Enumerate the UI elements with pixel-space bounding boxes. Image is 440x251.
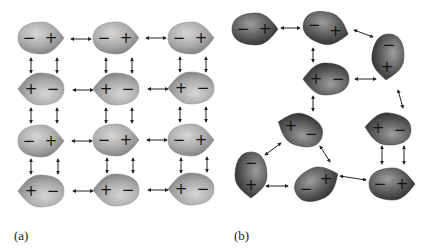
negative-pole-sign: − — [394, 121, 407, 139]
positive-pole-sign: + — [396, 175, 409, 193]
dipole-molecule: −+ — [93, 73, 139, 105]
positive-pole-sign: + — [100, 80, 113, 98]
dipole-molecule: −+ — [232, 13, 278, 45]
positive-pole-sign: + — [259, 20, 272, 38]
negative-pole-sign: − — [332, 70, 345, 88]
panel-b: −+−+−+−+−+−+−+−+−+ — [232, 7, 415, 208]
negative-pole-sign: − — [47, 80, 60, 98]
negative-pole-sign: − — [122, 181, 135, 199]
dipole-molecule: −+ — [289, 159, 344, 207]
positive-pole-sign: + — [320, 170, 333, 188]
positive-pole-sign: + — [195, 29, 208, 47]
interaction-arrow — [320, 146, 330, 162]
negative-pole-sign: − — [98, 131, 111, 149]
positive-pole-sign: + — [310, 70, 323, 88]
dipole-molecule: −+ — [18, 73, 64, 105]
negative-pole-sign: − — [374, 175, 387, 193]
dipole-molecule: −+ — [18, 22, 64, 54]
negative-pole-sign: − — [122, 80, 135, 98]
negative-pole-sign: − — [300, 180, 313, 198]
positive-pole-sign: + — [195, 131, 208, 149]
interaction-arrow — [265, 143, 281, 155]
positive-pole-sign: + — [25, 182, 38, 200]
dipole-molecule: −+ — [235, 152, 267, 198]
dipole-molecule: −+ — [273, 107, 327, 153]
positive-pole-sign: + — [372, 119, 385, 137]
interaction-arrow — [354, 30, 373, 37]
dipole-diagram: −+−+−+−+−+−+−+−+−+−+−+−+ −+−+−+−+−+−+−+−… — [0, 0, 440, 251]
negative-pole-sign: − — [237, 20, 250, 38]
positive-pole-sign: + — [120, 131, 133, 149]
positive-pole-sign: + — [45, 29, 58, 47]
interaction-arrow — [340, 176, 366, 180]
positive-pole-sign: + — [284, 117, 297, 135]
dipole-molecule: −+ — [168, 72, 214, 104]
negative-pole-sign: − — [173, 131, 186, 149]
negative-pole-sign: − — [98, 29, 111, 47]
positive-pole-sign: + — [175, 79, 188, 97]
dipole-molecule: −+ — [18, 125, 64, 157]
panel-a-label: (a) — [14, 228, 28, 244]
negative-pole-sign: − — [197, 180, 210, 198]
negative-pole-sign: − — [245, 154, 258, 172]
negative-pole-sign: − — [383, 36, 396, 54]
dipole-molecule: −+ — [93, 22, 139, 54]
dipole-molecule: −+ — [93, 174, 139, 206]
dipole-molecule: −+ — [93, 124, 139, 156]
positive-pole-sign: + — [25, 80, 38, 98]
dipole-molecule: −+ — [300, 7, 353, 50]
dipole-molecule: −+ — [168, 173, 214, 205]
dipole-molecule: −+ — [369, 168, 415, 200]
positive-pole-sign: + — [45, 132, 58, 150]
dipole-molecule: −+ — [370, 33, 406, 82]
dipole-molecule: −+ — [303, 63, 349, 95]
interaction-arrow — [398, 90, 403, 108]
positive-pole-sign: + — [381, 58, 394, 76]
negative-pole-sign: − — [23, 132, 36, 150]
positive-pole-sign: + — [175, 180, 188, 198]
positive-pole-sign: + — [100, 181, 113, 199]
dipole-molecule: −+ — [18, 175, 64, 207]
dipole-molecule: −+ — [168, 124, 214, 156]
negative-pole-sign: − — [305, 125, 318, 143]
positive-pole-sign: + — [329, 22, 342, 40]
negative-pole-sign: − — [23, 29, 36, 47]
negative-pole-sign: − — [197, 79, 210, 97]
negative-pole-sign: − — [173, 29, 186, 47]
panel-b-label: (b) — [234, 228, 249, 244]
panel-a: −+−+−+−+−+−+−+−+−+−+−+−+ — [18, 22, 214, 207]
positive-pole-sign: + — [120, 29, 133, 47]
positive-pole-sign: + — [245, 176, 258, 194]
dipole-molecule: −+ — [168, 22, 214, 54]
negative-pole-sign: − — [47, 182, 60, 200]
negative-pole-sign: − — [308, 16, 321, 34]
dipole-molecule: −+ — [364, 111, 413, 147]
